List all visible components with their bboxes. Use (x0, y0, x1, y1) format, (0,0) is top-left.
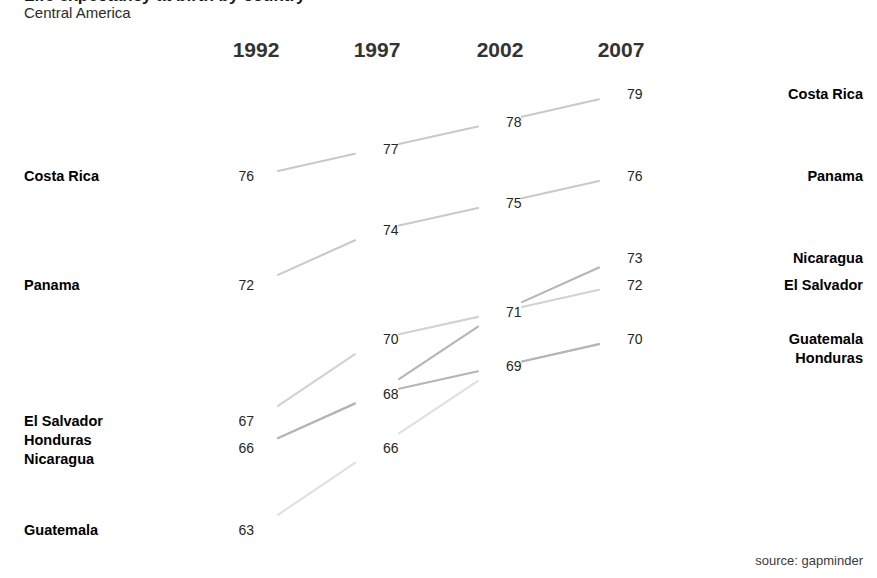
slope-series-nicaragua (278, 267, 599, 438)
source-attribution: source: gapminder (755, 553, 863, 568)
slope-series-costa-rica (278, 99, 599, 171)
country-label-panama: Panama (24, 275, 80, 294)
value-label-2002-69: 69 (506, 358, 522, 374)
country-label-group: Nicaragua (793, 248, 863, 267)
value-label-1992-76: 76 (238, 168, 254, 184)
country-label-group: Panama (807, 167, 863, 186)
country-label-group: Panama (24, 275, 80, 294)
value-label-2002-75: 75 (506, 195, 522, 211)
slope-series-honduras (278, 344, 599, 438)
country-label-group: GuatemalaHonduras (789, 330, 863, 368)
value-label-1997-74: 74 (383, 222, 399, 238)
value-label-1997-77: 77 (383, 141, 399, 157)
value-label-1992-66: 66 (238, 440, 254, 456)
value-label-1992-63: 63 (238, 522, 254, 538)
country-label-guatemala: Guatemala (24, 520, 98, 539)
country-label-nicaragua: Nicaragua (793, 248, 863, 267)
country-label-group: Costa Rica (24, 167, 99, 186)
value-label-1992-72: 72 (238, 277, 254, 293)
slope-series-el-salvador (278, 290, 599, 406)
value-label-2002-78: 78 (506, 114, 522, 130)
value-label-2007-73: 73 (627, 250, 643, 266)
country-label-nicaragua: Nicaragua (24, 449, 103, 468)
country-label-el-salvador: El Salvador (24, 411, 103, 430)
slope-series-panama (278, 181, 599, 275)
country-label-costa-rica: Costa Rica (24, 167, 99, 186)
value-label-1997-66: 66 (383, 440, 399, 456)
slopegraph-chart: Life expectancy at birth by country Cent… (0, 0, 877, 578)
value-label-2002-71: 71 (506, 304, 522, 320)
value-label-2007-72: 72 (627, 277, 643, 293)
value-label-2007-79: 79 (627, 86, 643, 102)
value-label-1992-67: 67 (238, 413, 254, 429)
country-label-panama: Panama (807, 167, 863, 186)
country-label-group: El SalvadorHondurasNicaragua (24, 411, 103, 468)
country-label-el-salvador: El Salvador (784, 275, 863, 294)
country-label-group: El Salvador (784, 275, 863, 294)
country-label-group: Costa Rica (788, 85, 863, 104)
country-label-costa-rica: Costa Rica (788, 85, 863, 104)
slope-series-guatemala (278, 344, 599, 515)
country-label-honduras: Honduras (789, 349, 863, 368)
country-label-guatemala: Guatemala (789, 330, 863, 349)
value-label-2007-76: 76 (627, 168, 643, 184)
country-label-honduras: Honduras (24, 430, 103, 449)
country-label-group: Guatemala (24, 520, 98, 539)
value-label-1997-70: 70 (383, 331, 399, 347)
value-label-1997-68: 68 (383, 386, 399, 402)
slope-lines (0, 0, 877, 578)
value-label-2007-70: 70 (627, 331, 643, 347)
